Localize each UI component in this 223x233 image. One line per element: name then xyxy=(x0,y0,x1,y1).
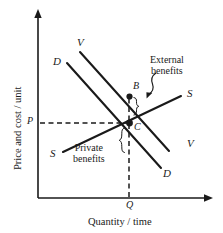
curve-label-value-lower-right: V xyxy=(187,138,194,150)
point-b-marker xyxy=(126,93,132,99)
annotation-external-benefits-line2: benefits xyxy=(150,66,184,77)
curve-label-supply-lower-left: S xyxy=(50,148,56,160)
point-c-marker xyxy=(126,120,133,127)
y-axis-title: Price and cost / unit xyxy=(12,87,23,170)
annotation-external-benefits: External benefits xyxy=(150,55,184,76)
annotation-private-benefits-line2: benefits xyxy=(73,154,105,165)
point-label-b: B xyxy=(133,81,139,92)
annotation-private-benefits: Private benefits xyxy=(73,143,105,164)
curve-label-value-upper-left: V xyxy=(77,37,84,49)
y-axis-tick-label-p: P xyxy=(27,116,33,127)
external-benefits-pointer-arrow xyxy=(148,73,156,95)
annotation-external-benefits-line1: External xyxy=(150,55,184,66)
x-axis-tick-label-q: Q xyxy=(126,200,133,211)
economics-diagram: Price and cost / unit Quantity / time P … xyxy=(0,0,223,233)
diagram-canvas xyxy=(0,0,223,233)
curve-label-demand-lower-right: D xyxy=(163,168,171,180)
private-benefits-brace xyxy=(119,128,125,153)
point-label-c: C xyxy=(134,122,141,133)
y-axis xyxy=(34,9,41,198)
external-benefits-arrowhead xyxy=(146,92,152,98)
x-axis-title: Quantity / time xyxy=(88,216,152,227)
curve-label-supply-upper-right: S xyxy=(187,88,193,100)
curve-label-demand-upper-left: D xyxy=(53,56,61,68)
annotation-private-benefits-line1: Private xyxy=(73,143,105,154)
